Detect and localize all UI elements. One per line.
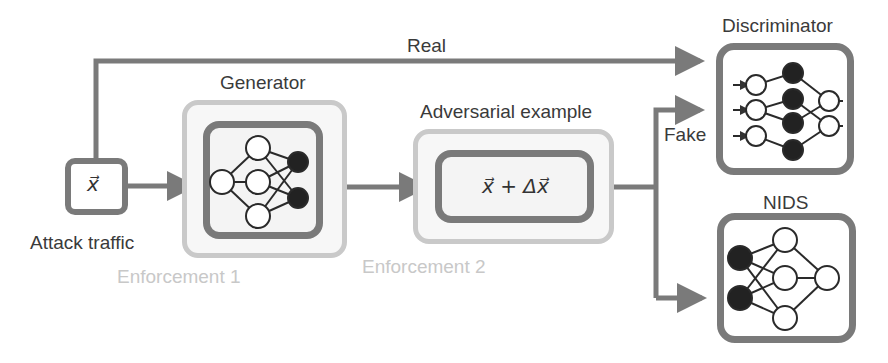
nids-network-icon <box>0 0 888 363</box>
diagram-canvas: Real x⃗ Attack traffic Generator Enforce… <box>0 0 888 363</box>
